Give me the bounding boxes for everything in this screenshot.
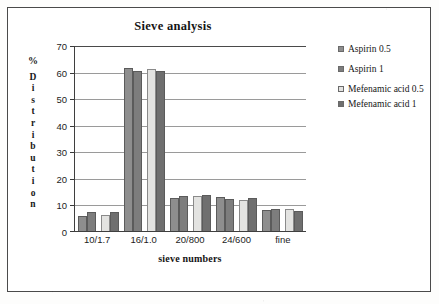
bar	[216, 197, 225, 231]
y-axis-title-letter: s	[23, 95, 43, 107]
x-axis-tick-label: 16/1.0	[120, 234, 166, 245]
bar	[239, 200, 248, 231]
legend-label: Aspirin 1	[348, 64, 384, 75]
y-axis-title-letter: o	[23, 188, 43, 200]
y-axis-tick-label: 20	[56, 173, 67, 184]
bar	[271, 209, 280, 231]
y-axis-title-letters: Distribution	[23, 72, 43, 211]
y-axis-title-letter: D	[23, 72, 43, 84]
bar	[110, 212, 119, 231]
legend-label: Mefenamic acid 1	[348, 99, 417, 110]
legend-swatch-icon	[338, 86, 344, 92]
legend-label: Aspirin 0.5	[348, 44, 391, 55]
y-axis-title-letter: i	[23, 130, 43, 142]
y-axis-tick-label: 0	[62, 227, 67, 238]
plot-area-wrapper: 706050403020100 10/1.716/1.020/80024/600…	[48, 46, 316, 251]
bar	[193, 196, 202, 231]
bar	[248, 198, 257, 231]
legend-item[interactable]: Mefenamic acid 1	[338, 99, 438, 110]
bar	[78, 216, 87, 231]
x-axis-title: sieve numbers	[74, 253, 306, 264]
bar-group	[167, 46, 213, 231]
chart-page: Sieve analysis % Distribution 7060504030…	[0, 0, 439, 304]
bar	[124, 68, 133, 231]
bar	[101, 215, 110, 231]
bar	[156, 71, 165, 231]
bar-group	[260, 46, 306, 231]
bar-groups	[75, 46, 306, 231]
bar	[202, 195, 211, 231]
y-axis-title-letter: i	[23, 83, 43, 95]
y-axis-tick-label: 40	[56, 120, 67, 131]
chart-legend: Aspirin 0.5Aspirin 1Mefenamic acid 0.5Me…	[338, 44, 438, 119]
bar-group	[214, 46, 260, 231]
legend-item[interactable]: Aspirin 0.5	[338, 44, 438, 55]
y-axis-tick-label: 10	[56, 200, 67, 211]
bar	[294, 211, 303, 231]
bar	[170, 198, 179, 231]
bar	[285, 209, 294, 231]
y-axis-title-letter: u	[23, 153, 43, 165]
x-axis-tick-label: 10/1.7	[74, 234, 120, 245]
legend-swatch-icon	[338, 101, 344, 107]
bar	[225, 199, 234, 231]
bar	[147, 69, 156, 231]
y-axis-title-letter: t	[23, 106, 43, 118]
y-axis-title-letter: n	[23, 199, 43, 211]
bar	[262, 210, 271, 231]
y-axis-percent-symbol: %	[23, 55, 43, 67]
x-axis-tick-labels: 10/1.716/1.020/80024/600fine	[74, 234, 306, 245]
x-axis-tick-label: 20/800	[167, 234, 213, 245]
legend-item[interactable]: Mefenamic acid 0.5	[338, 84, 438, 95]
bar-group	[121, 46, 167, 231]
plot-area	[74, 46, 306, 232]
x-axis-tick-label: fine	[260, 234, 306, 245]
y-axis-title-letter: r	[23, 118, 43, 130]
y-axis-tick-label: 50	[56, 94, 67, 105]
legend-item[interactable]: Aspirin 1	[338, 64, 438, 75]
y-axis-title: % Distribution	[23, 55, 43, 211]
legend-swatch-icon	[338, 66, 344, 72]
bar	[87, 212, 96, 231]
chart-title: Sieve analysis	[8, 19, 338, 34]
bar-group	[75, 46, 121, 231]
x-axis-tick-label: 24/600	[213, 234, 259, 245]
bar	[133, 71, 142, 231]
y-axis-tick-label: 60	[56, 67, 67, 78]
chart-frame-border: Sieve analysis % Distribution 7060504030…	[7, 7, 431, 292]
legend-label: Mefenamic acid 0.5	[348, 84, 424, 95]
y-axis-title-letter: b	[23, 141, 43, 153]
y-axis-title-letter: t	[23, 164, 43, 176]
y-axis-tick-labels: 706050403020100	[48, 46, 70, 232]
y-axis-title-letter: i	[23, 176, 43, 188]
legend-swatch-icon	[338, 46, 344, 52]
bar	[179, 196, 188, 231]
y-axis-tick-label: 70	[56, 41, 67, 52]
y-axis-tick-label: 30	[56, 147, 67, 158]
